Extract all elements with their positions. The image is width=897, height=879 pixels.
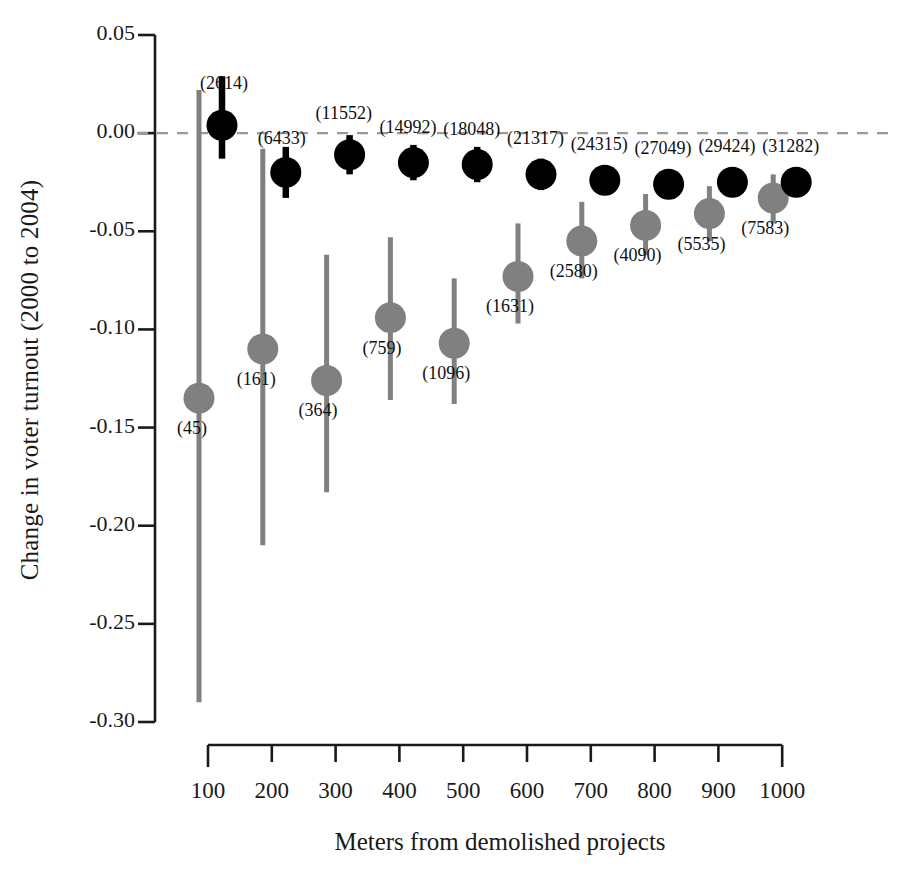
y-tick-label: 0.05	[45, 20, 135, 46]
data-point-non-displaced-neighbors-700	[589, 165, 620, 196]
point-sample-size-label: (6433)	[258, 128, 306, 149]
x-tick-label: 100	[173, 778, 243, 804]
chart-figure: Change in voter turnout (2000 to 2004) M…	[0, 0, 897, 879]
point-sample-size-label: (21317)	[507, 128, 564, 149]
x-tick-label: 900	[683, 778, 753, 804]
data-point-displaced-residents-200	[247, 149, 278, 545]
data-point-displaced-residents-300	[311, 255, 342, 493]
y-tick-label: -0.25	[45, 609, 135, 635]
data-series-layer	[184, 76, 812, 702]
y-tick-label: 0.00	[45, 118, 135, 144]
point-sample-size-label: (11552)	[316, 103, 372, 124]
y-axis-label-container: Change in voter turnout (2000 to 2004)	[0, 0, 60, 760]
x-tick-label: 700	[556, 778, 626, 804]
data-point-non-displaced-neighbors-600	[526, 159, 557, 190]
point-sample-size-label: (14992)	[379, 117, 436, 138]
point-sample-size-label: (5535)	[677, 234, 725, 255]
data-point-non-displaced-neighbors-400	[398, 145, 429, 180]
point-sample-size-label: (161)	[237, 369, 276, 390]
x-tick-label: 800	[620, 778, 690, 804]
y-tick-label: -0.15	[45, 413, 135, 439]
data-point-displaced-residents-500	[439, 278, 470, 404]
point-sample-size-label: (2580)	[550, 261, 598, 282]
data-point-non-displaced-neighbors-800	[653, 169, 684, 200]
y-tick-label: -0.05	[45, 216, 135, 242]
data-point-displaced-residents-400	[375, 237, 406, 400]
data-point-non-displaced-neighbors-500	[462, 147, 493, 182]
data-point-non-displaced-neighbors-200	[270, 147, 301, 198]
x-tick-label: 1000	[747, 778, 817, 804]
point-sample-size-label: (2614)	[200, 73, 248, 94]
point-sample-size-label: (27049)	[635, 138, 692, 159]
x-axis-label: Meters from demolished projects	[150, 828, 850, 856]
point-sample-size-label: (18048)	[443, 119, 500, 140]
point-sample-size-label: (45)	[177, 418, 207, 439]
y-axis-label: Change in voter turnout (2000 to 2004)	[16, 180, 44, 581]
point-sample-size-label: (1096)	[422, 363, 470, 384]
x-tick-label: 200	[237, 778, 307, 804]
data-point-displaced-residents-100	[184, 90, 215, 702]
point-sample-size-label: (759)	[362, 338, 401, 359]
x-tick-label: 300	[301, 778, 371, 804]
x-tick-label: 500	[428, 778, 498, 804]
data-point-non-displaced-neighbors-300	[334, 135, 365, 174]
y-tick-label: -0.20	[45, 511, 135, 537]
point-sample-size-label: (24315)	[571, 134, 628, 155]
point-sample-size-label: (1631)	[486, 296, 534, 317]
point-sample-size-label: (7583)	[741, 218, 789, 239]
point-sample-size-label: (364)	[299, 400, 338, 421]
point-sample-size-label: (29424)	[698, 136, 755, 157]
point-sample-size-label: (31282)	[762, 136, 819, 157]
point-sample-size-label: (4090)	[614, 245, 662, 266]
x-tick-label: 400	[364, 778, 434, 804]
data-point-non-displaced-neighbors-900	[717, 167, 748, 198]
y-tick-label: -0.10	[45, 314, 135, 340]
y-tick-label: -0.30	[45, 707, 135, 733]
data-point-non-displaced-neighbors-1000	[781, 167, 812, 198]
x-tick-label: 600	[492, 778, 562, 804]
